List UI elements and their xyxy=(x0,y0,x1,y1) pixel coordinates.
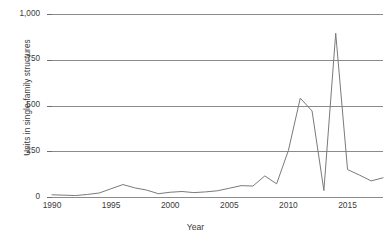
chart-container: Units in single-family structures 025050… xyxy=(0,0,391,243)
series-line-units-in-single-family-structures xyxy=(52,33,383,195)
x-axis-title: Year xyxy=(0,222,391,232)
line-series-plot xyxy=(0,0,391,243)
